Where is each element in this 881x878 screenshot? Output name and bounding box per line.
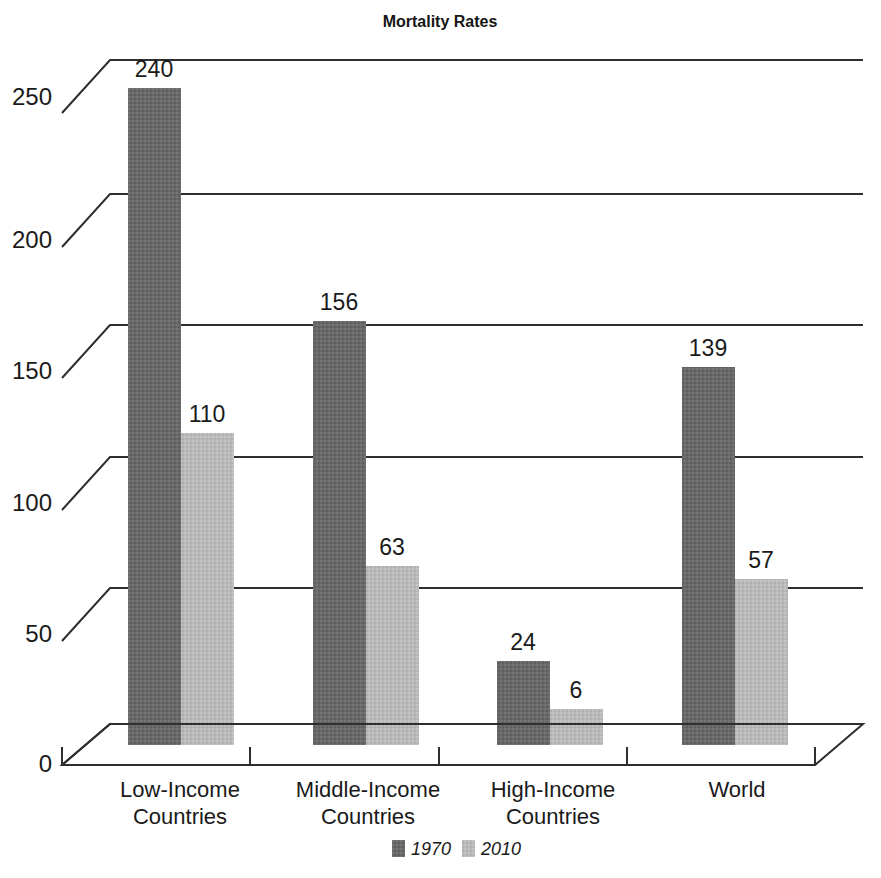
category-label-high-income-line2: Countries — [506, 804, 600, 829]
bar-group-middle-income: 156 63 — [313, 289, 419, 745]
bar-1970-high-income[interactable] — [497, 661, 550, 745]
bar-2010-world[interactable] — [735, 579, 788, 745]
y-tick-150: 150 — [12, 357, 52, 384]
value-label-2010-low-income: 110 — [189, 401, 226, 427]
value-label-2010-world: 57 — [748, 547, 774, 573]
y-tick-250: 250 — [12, 83, 52, 110]
y-tick-50: 50 — [25, 620, 52, 647]
gridline-150 — [62, 325, 863, 378]
category-label-middle-income-line2: Countries — [321, 804, 415, 829]
bar-2010-low-income[interactable] — [181, 433, 234, 745]
chart-title: Mortality Rates — [383, 13, 498, 30]
legend-swatch-2010[interactable] — [462, 840, 475, 857]
category-label-high-income-line1: High-Income — [491, 777, 616, 802]
bar-group-world: 139 57 — [682, 335, 788, 745]
bar-1970-world[interactable] — [682, 367, 735, 745]
category-label-low-income-line1: Low-Income — [120, 777, 240, 802]
value-label-2010-high-income: 6 — [570, 677, 583, 703]
bar-2010-middle-income[interactable] — [366, 566, 419, 745]
chart-container: Mortality Rates 250 200 150 100 50 0 — [0, 0, 881, 878]
value-label-1970-world: 139 — [689, 335, 727, 361]
category-label-middle-income-line1: Middle-Income — [296, 777, 440, 802]
value-label-1970-low-income: 240 — [135, 56, 173, 82]
legend-label-2010[interactable]: 2010 — [480, 839, 521, 859]
bar-2010-high-income[interactable] — [550, 709, 603, 745]
value-label-2010-middle-income: 63 — [379, 534, 405, 560]
y-tick-200: 200 — [12, 226, 52, 253]
mortality-rates-chart: Mortality Rates 250 200 150 100 50 0 — [0, 0, 881, 878]
legend-swatch-1970[interactable] — [392, 840, 405, 857]
x-axis-category-labels: Low-Income Countries Middle-Income Count… — [120, 777, 765, 829]
category-label-world-line1: World — [708, 777, 765, 802]
legend: 1970 2010 — [392, 839, 521, 859]
gridline-270 — [62, 60, 863, 113]
bar-group-high-income: 24 6 — [497, 629, 603, 745]
category-label-low-income-line2: Countries — [133, 804, 227, 829]
gridline-200 — [62, 194, 863, 247]
value-label-1970-middle-income: 156 — [320, 289, 358, 315]
bar-group-low-income: 240 110 — [128, 56, 234, 745]
y-axis-labels: 250 200 150 100 50 0 — [12, 83, 52, 777]
y-tick-0: 0 — [39, 750, 52, 777]
bar-1970-low-income[interactable] — [128, 88, 181, 745]
y-tick-100: 100 — [12, 489, 52, 516]
legend-label-1970[interactable]: 1970 — [411, 839, 451, 859]
bar-1970-middle-income[interactable] — [313, 321, 366, 745]
bars-layer: 240 110 156 63 24 6 139 — [128, 56, 788, 745]
value-label-1970-high-income: 24 — [510, 629, 536, 655]
